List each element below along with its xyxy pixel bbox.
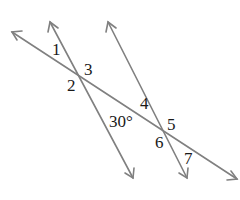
angle-label-4: 4 (140, 95, 149, 112)
angle-label-6: 6 (155, 134, 164, 151)
angle-label-1: 1 (52, 41, 61, 58)
angle-label-3: 3 (84, 61, 93, 78)
angle-label-2: 2 (67, 77, 76, 94)
angle-label-7: 7 (184, 150, 193, 167)
angle-label-5: 5 (167, 116, 176, 133)
given-angle-label: 30° (109, 113, 133, 130)
parallel-lines-diagram (0, 0, 240, 200)
